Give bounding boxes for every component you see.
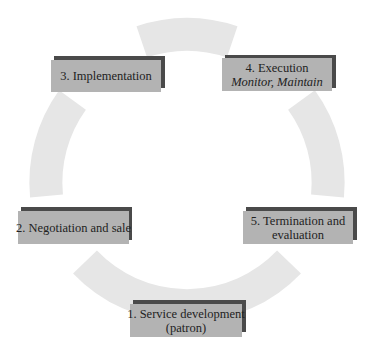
step-sublabel: Monitor, Maintain [231, 75, 323, 89]
step-4-execution: 4. Execution Monitor, Maintain [222, 55, 336, 91]
step-label: 2. Negotiation and sale [16, 221, 131, 235]
step-1-service-development: 1. Service development (patron) [130, 300, 246, 337]
step-sublabel: (patron) [166, 321, 206, 335]
box-face: 5. Termination and evaluation [243, 211, 353, 244]
step-3-implementation: 3. Implementation [51, 56, 165, 92]
ring-segment-upper-right [302, 100, 329, 196]
box-face: 4. Execution Monitor, Maintain [222, 58, 332, 91]
ring-segment-upper-left [46, 100, 73, 196]
box-face: 1. Service development (patron) [130, 304, 242, 337]
step-2-negotiation: 2. Negotiation and sale [18, 207, 132, 244]
step-label: 4. Execution [245, 61, 308, 75]
step-5-termination: 5. Termination and evaluation [243, 207, 357, 244]
step-label: 3. Implementation [60, 69, 152, 83]
box-face: 3. Implementation [51, 60, 161, 92]
step-label: 1. Service development [127, 307, 245, 321]
box-face: 2. Negotiation and sale [18, 211, 129, 244]
ring-segment-top [142, 34, 232, 41]
cycle-diagram: 3. Implementation 4. Execution Monitor, … [0, 0, 373, 355]
step-sublabel: evaluation [272, 228, 324, 242]
step-label: 5. Termination and [251, 214, 345, 228]
